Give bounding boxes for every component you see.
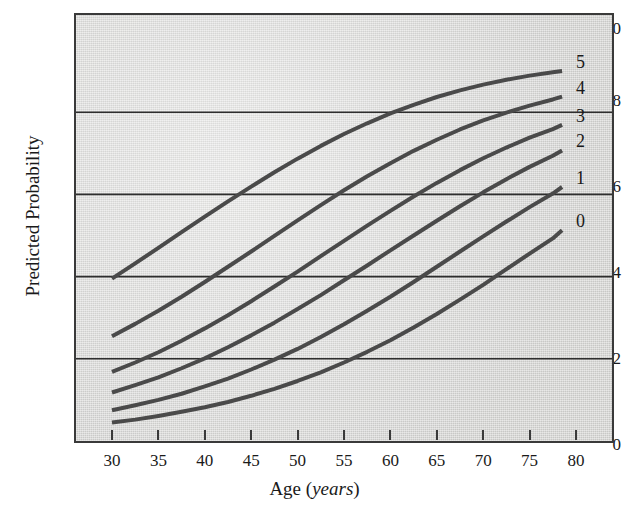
x-axis-title-plain: Age ( bbox=[269, 478, 312, 499]
curve-3 bbox=[112, 125, 562, 372]
x-tick-mark bbox=[529, 430, 531, 440]
gridlines bbox=[76, 112, 612, 359]
plot-area bbox=[74, 13, 614, 443]
x-tick-label-55: 55 bbox=[324, 452, 364, 469]
series-label-3: 3 bbox=[576, 107, 598, 125]
x-tick-mark bbox=[250, 430, 252, 440]
x-tick-mark bbox=[389, 430, 391, 440]
x-axis-title: Age (years) bbox=[0, 478, 629, 500]
x-tick-mark bbox=[297, 430, 299, 440]
x-tick-mark bbox=[575, 430, 577, 440]
series-label-0: 0 bbox=[576, 212, 598, 230]
x-tick-label-80: 80 bbox=[556, 452, 596, 469]
y-axis-title: Predicted Probability bbox=[22, 91, 44, 341]
x-tick-label-70: 70 bbox=[463, 452, 503, 469]
x-tick-mark bbox=[111, 430, 113, 440]
curve-4 bbox=[112, 97, 562, 337]
series-label-5: 5 bbox=[576, 53, 598, 71]
x-tick-label-30: 30 bbox=[92, 452, 132, 469]
figure-container: 1.0 0.8 0.6 0.4 0.2 0 Predicted Probabil… bbox=[0, 0, 629, 510]
series-label-4: 4 bbox=[576, 79, 598, 97]
x-tick-label-45: 45 bbox=[231, 452, 271, 469]
x-tick-mark bbox=[482, 430, 484, 440]
series-label-1: 1 bbox=[576, 169, 598, 187]
x-tick-label-65: 65 bbox=[417, 452, 457, 469]
data-curves bbox=[112, 71, 562, 422]
x-tick-mark bbox=[343, 430, 345, 440]
x-axis-title-close: ) bbox=[353, 478, 359, 499]
x-tick-label-60: 60 bbox=[370, 452, 410, 469]
x-tick-mark bbox=[157, 430, 159, 440]
curve-2 bbox=[112, 150, 562, 392]
x-tick-mark bbox=[436, 430, 438, 440]
series-label-2: 2 bbox=[576, 132, 598, 150]
x-tick-mark bbox=[204, 430, 206, 440]
x-tick-label-50: 50 bbox=[278, 452, 318, 469]
x-tick-label-35: 35 bbox=[138, 452, 178, 469]
x-tick-label-40: 40 bbox=[185, 452, 225, 469]
plot-svg bbox=[76, 15, 612, 441]
x-axis-title-italic: years bbox=[312, 478, 353, 499]
x-tick-label-75: 75 bbox=[510, 452, 550, 469]
